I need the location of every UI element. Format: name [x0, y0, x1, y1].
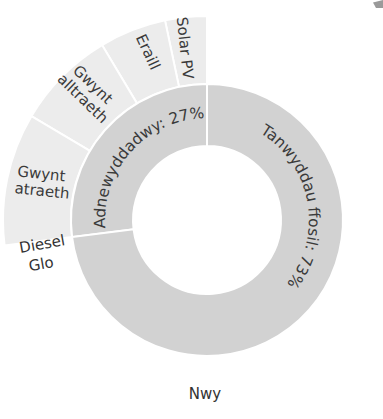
inner-ring-fossil-vs-renewable: [71, 84, 343, 356]
coal-label: Glo: [27, 253, 55, 275]
onshore-wind-label: Gwynt atraeth: [14, 162, 72, 203]
gas-label: Nwy: [189, 385, 221, 403]
nested-donut-chart: Adnewyddadwy: 27% Tanwyddau ffosil: 73% …: [0, 0, 383, 419]
